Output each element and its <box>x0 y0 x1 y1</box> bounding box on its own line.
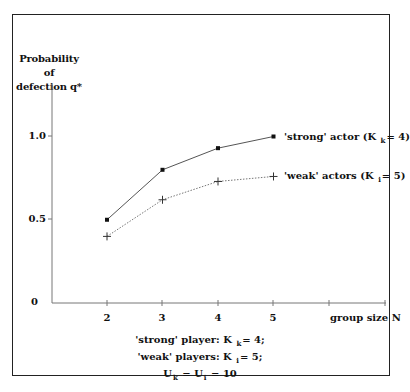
note-line-3-sub-a: k <box>173 373 178 382</box>
square-marker <box>105 218 109 222</box>
note-line-1-suffix: = 4; <box>242 334 265 345</box>
series-weak-line <box>107 176 274 236</box>
note-line-3-u: U <box>163 368 172 379</box>
legend-weak-suffix: = 5) <box>382 170 406 181</box>
note-line-2-text: 'weak' players: K <box>138 351 232 362</box>
y-tick-label-0: 0 <box>14 296 38 307</box>
x-tick-label-3: 3 <box>152 312 172 323</box>
x-tick-label-4: 4 <box>208 312 228 323</box>
plus-marker <box>159 196 167 204</box>
y-tick-label-1: 1.0 <box>22 130 46 141</box>
note-line-1-text: 'strong' player: K <box>135 334 232 345</box>
note-line-1: 'strong' player: K k= 4; <box>90 333 310 350</box>
legend-weak-text: 'weak' actors (K <box>284 170 374 181</box>
series-weak-markers <box>103 172 278 240</box>
legend-weak: 'weak' actors (K i= 5) <box>284 170 405 184</box>
note-line-3-mid: = U <box>182 368 203 379</box>
x-tick-label-2: 2 <box>97 312 117 323</box>
plus-marker <box>103 232 111 240</box>
square-marker <box>216 146 220 150</box>
legend-strong-sub: k <box>381 136 386 145</box>
legend-strong-suffix: = 4) <box>386 131 410 142</box>
note-line-2: 'weak' players: K i= 5; <box>90 350 310 367</box>
note-line-2-sub: i <box>236 356 239 365</box>
x-tick-label-5: 5 <box>263 312 283 323</box>
parameter-note: 'strong' player: K k= 4; 'weak' players:… <box>90 333 310 384</box>
note-line-3-suffix: = 10 <box>211 368 237 379</box>
legend-strong: 'strong' actor (K k= 4) <box>284 131 410 145</box>
plus-marker <box>270 172 278 180</box>
square-marker <box>161 168 165 172</box>
note-line-3: Uk = Ui = 10 <box>90 367 310 384</box>
y-tick-label-05: 0.5 <box>22 213 46 224</box>
series-strong-line <box>107 137 274 220</box>
note-line-2-suffix: = 5; <box>240 351 263 362</box>
note-line-1-sub: k <box>236 339 241 348</box>
note-line-3-sub-b: i <box>204 373 207 382</box>
legend-weak-sub: i <box>378 175 381 184</box>
x-axis-label: group size N <box>330 312 401 323</box>
plus-marker <box>214 177 222 185</box>
square-marker <box>272 135 276 139</box>
legend-strong-text: 'strong' actor (K <box>284 131 376 142</box>
